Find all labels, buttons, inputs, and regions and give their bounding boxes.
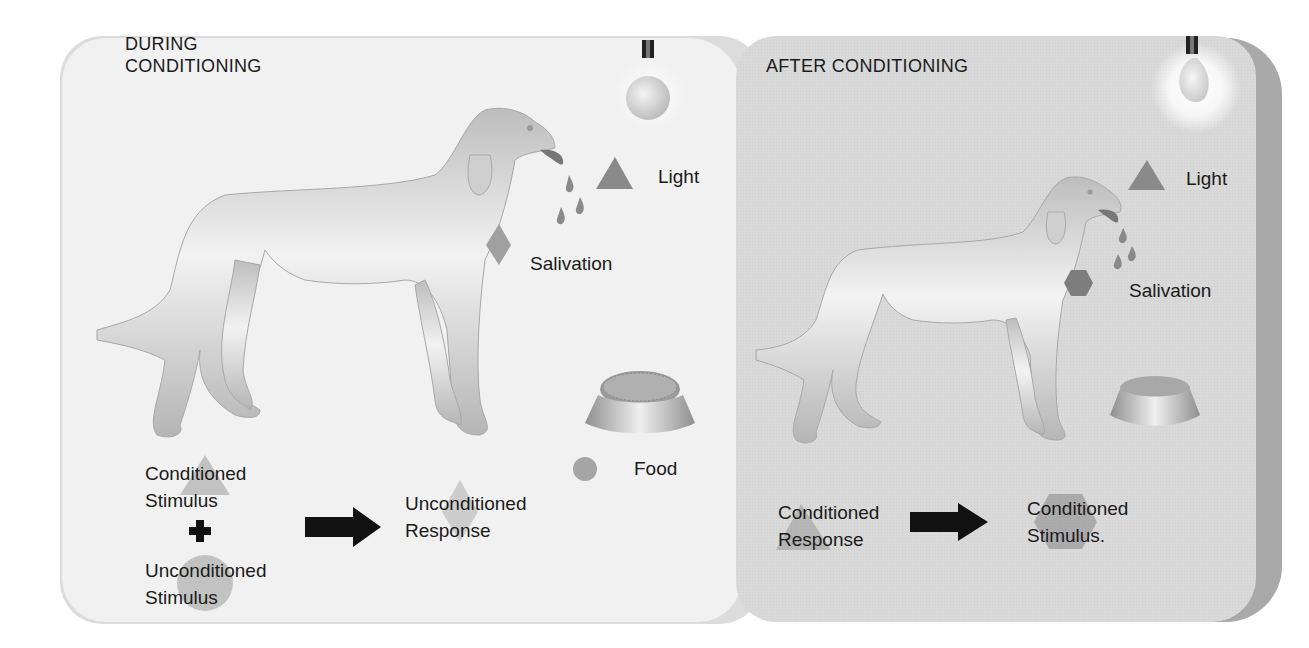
saliva-drops-icon [555,175,595,235]
right-arrow-icon-conditioned [910,503,988,541]
empty-food-bowl-icon [1108,375,1203,435]
salivation-hexagon-symbol [1064,270,1094,296]
conditioned-response-line2: Response [778,529,864,551]
unconditioned-response-line2: Response [405,520,491,542]
dog-illustration-conditioned [748,170,1148,460]
unconditioned-stimulus-line2: Stimulus [145,587,218,609]
conditioned-stimulus-line1-after: Conditioned [1027,498,1128,520]
light-label-conditioned: Light [1186,168,1227,190]
unconditioned-stimulus-line1: Unconditioned [145,560,266,582]
after-title: AFTER CONDITIONING [766,55,968,77]
food-label: Food [634,458,677,480]
food-circle-symbol [572,456,598,482]
glowing-light-bulb-icon [1150,36,1240,146]
dog-illustration [85,100,535,460]
light-triangle-symbol-conditioned [1128,160,1166,192]
salivation-label: Salivation [530,253,612,275]
right-arrow-icon [305,507,381,547]
conditioned-stimulus-line2: Stimulus [145,490,218,512]
salivation-label-conditioned: Salivation [1129,280,1211,302]
plus-icon [189,520,211,542]
food-bowl-icon [583,365,698,440]
salivation-diamond-symbol [486,224,512,266]
during-title-line2: CONDITIONING [125,55,262,77]
conditioned-stimulus-line2-after: Stimulus. [1027,525,1105,547]
light-triangle-symbol [596,157,634,191]
conditioned-stimulus-line1: Conditioned [145,463,246,485]
light-bulb-icon [620,40,680,130]
light-label: Light [658,166,699,188]
unconditioned-response-line1: Unconditioned [405,493,526,515]
during-title-line1: DURING [125,33,198,55]
conditioned-response-line1: Conditioned [778,502,879,524]
saliva-drops-icon-conditioned [1112,228,1142,278]
